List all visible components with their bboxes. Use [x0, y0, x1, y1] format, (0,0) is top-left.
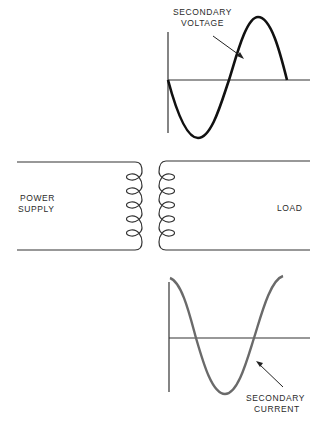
secondary-circuit: LOAD [159, 161, 310, 250]
current-curve [170, 276, 283, 394]
power-supply-label-line2: SUPPLY [18, 204, 55, 214]
primary-circuit: POWER SUPPLY [17, 162, 142, 250]
secondary-voltage-plot: SECONDARY VOLTAGE [168, 7, 310, 138]
current-pointer-arrow [258, 363, 283, 387]
current-label-line2: CURRENT [254, 404, 300, 414]
load-label: LOAD [277, 203, 303, 213]
voltage-label-line2: VOLTAGE [181, 18, 224, 28]
power-supply-label-line1: POWER [20, 193, 55, 203]
current-label-line1: SECONDARY [246, 393, 305, 403]
primary-coil [127, 162, 143, 250]
voltage-curve [168, 17, 287, 138]
secondary-coil [159, 161, 175, 250]
secondary-current-plot: SECONDARY CURRENT [169, 276, 310, 414]
voltage-pointer-arrow [213, 36, 242, 57]
voltage-label-line1: SECONDARY [173, 7, 232, 17]
transformer-diagram: SECONDARY VOLTAGE POWER SUPPLY LOAD SECO… [0, 0, 325, 424]
